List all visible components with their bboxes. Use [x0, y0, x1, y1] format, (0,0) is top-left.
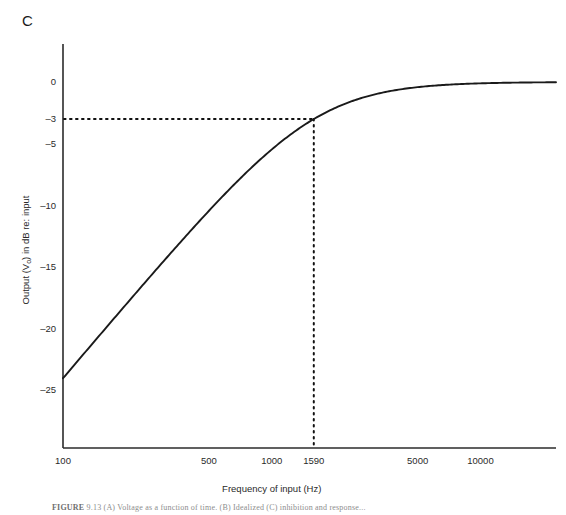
x-axis-tick-labels: 10050010001590500010000	[55, 455, 494, 466]
y-axis-title-main: Output (V	[20, 263, 31, 304]
y-axis-title-tail: ) in dB re: input	[20, 195, 31, 260]
x-tick-label: 500	[201, 455, 217, 466]
caption-rest: 9.13 (A) Voltage as a function of time. …	[84, 503, 365, 512]
x-tick-label: 100	[55, 455, 71, 466]
y-tick-label: –10	[40, 200, 56, 211]
x-axis-title: Frequency of input (Hz)	[222, 483, 321, 494]
y-tick-label: –20	[40, 323, 56, 334]
y-tick-label: –15	[40, 261, 56, 272]
x-tick-label: 10000	[467, 455, 493, 466]
x-tick-label: 5000	[407, 455, 428, 466]
y-axis-tick-labels: 0–3–5–10–15–20–25	[40, 76, 56, 395]
x-tick-label: 1000	[261, 455, 282, 466]
y-axis-title: Output (Vo) in dB re: input	[20, 195, 32, 304]
figure-caption-strip: FIGURE 9.13 (A) Voltage as a function of…	[0, 503, 566, 515]
caption-bold-prefix: FIGURE	[52, 503, 84, 512]
figure-caption: FIGURE 9.13 (A) Voltage as a function of…	[0, 503, 566, 512]
frequency-response-plot: 0–3–5–10–15–20–25 1005001000159050001000…	[0, 0, 566, 503]
figure-panel-c: C 0–3–5–10–15–20–25 10050010001590500010…	[0, 0, 566, 515]
svg-text:Output (Vo) in dB re: input: Output (Vo) in dB re: input	[20, 195, 32, 304]
y-tick-label: –3	[45, 113, 56, 124]
y-tick-label: 0	[51, 76, 56, 87]
response-curve	[63, 82, 556, 378]
y-tick-label: –25	[40, 384, 56, 395]
y-tick-label: –5	[45, 138, 56, 149]
x-tick-label: 1590	[303, 455, 324, 466]
